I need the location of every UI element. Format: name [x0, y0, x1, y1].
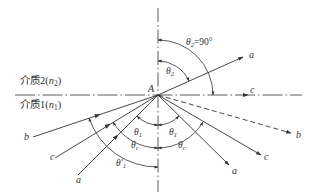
ray-c-incident: [55, 95, 158, 158]
theta2-90-label: θ2=90°: [186, 38, 213, 49]
arc-theta1-right: [158, 116, 179, 125]
ray-a-reflected-label: a: [232, 166, 237, 176]
theta1-right-label: θ1: [169, 128, 177, 139]
ray-a-refracted-label: a: [249, 50, 254, 60]
ray-c-reflected-label: c: [264, 152, 268, 162]
theta2-label: θ2: [166, 67, 174, 78]
ray-b-incident-label: b: [24, 132, 29, 142]
ray-c-refracted-label: c: [250, 85, 254, 95]
refraction-diagram: [0, 0, 312, 196]
theta1-left-label: θ1: [134, 128, 142, 139]
medium-1-label: 介质1(n1): [20, 100, 61, 111]
thetac-left-label: θc: [131, 141, 139, 152]
theta1-prime-label: θ'1: [116, 159, 126, 170]
thetac-right-label: θc: [178, 141, 186, 152]
ray-b-reflected: [158, 95, 291, 133]
ray-a-incident-label: a: [76, 175, 81, 185]
ray-b-reflected-label: b: [296, 130, 301, 140]
medium-2-label: 介质2(n2): [20, 76, 61, 87]
arc-theta1-left: [137, 116, 158, 125]
ray-c-incident-label: c: [50, 152, 54, 162]
point-a-label: A: [148, 84, 154, 94]
